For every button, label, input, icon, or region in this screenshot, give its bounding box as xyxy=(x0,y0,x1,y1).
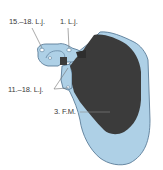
attachment-point-coracoid xyxy=(48,57,51,60)
attachment-point-15-18 xyxy=(40,48,44,52)
leader-line-15-18 xyxy=(32,28,42,48)
label-11-18-lj: 11.–18. L.j. xyxy=(8,86,43,94)
attachment-point-1 xyxy=(67,48,71,52)
scapula-diagram: 15.–18. L.j. 1. L.j. 11.–18. L.j. 3. F.M… xyxy=(0,0,163,170)
label-1-lj: 1. L.j. xyxy=(60,18,78,26)
leader-line-1 xyxy=(68,28,69,48)
glenoid-dark-block xyxy=(60,57,67,65)
label-15-18-lj: 15.–18. L.j. xyxy=(9,18,45,26)
label-3-fm: 3. F.M. xyxy=(54,108,76,116)
